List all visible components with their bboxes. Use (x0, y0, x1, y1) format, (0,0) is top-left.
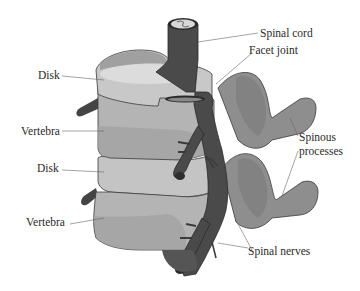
label-disk-upper: Disk (38, 69, 60, 82)
middle-disk (98, 154, 212, 197)
label-spinous-processes-line1: Spinous (299, 131, 336, 144)
lower-pedicle (162, 250, 197, 272)
label-spinal-cord: Spinal cord (260, 27, 313, 40)
lower-spinous-process (222, 154, 318, 229)
label-disk-lower: Disk (37, 162, 59, 175)
label-vertebra-upper: Vertebra (21, 125, 60, 138)
label-spinous-processes-line2: processes (299, 145, 343, 158)
label-facet-joint: Facet joint (249, 44, 298, 57)
upper-transverse-process (76, 98, 100, 116)
leader-spinal-cord (198, 33, 258, 42)
label-spinal-nerves: Spinal nerves (248, 245, 310, 258)
leader-spinal-nerves-b (218, 243, 248, 248)
label-vertebra-lower: Vertebra (26, 216, 65, 229)
facet-joint-opening (165, 96, 205, 103)
